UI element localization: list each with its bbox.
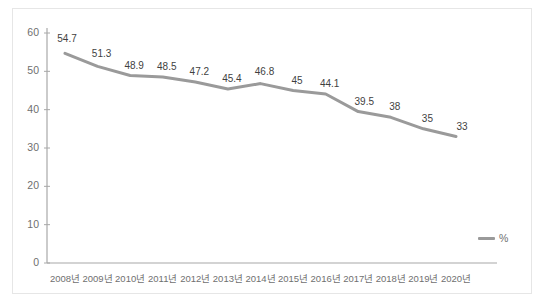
y-axis-tick-0: 0 — [5, 256, 39, 268]
y-axis-tick-50: 50 — [5, 64, 39, 76]
legend-label-percent: % — [499, 232, 508, 244]
data-label-2012년: 47.2 — [185, 66, 213, 77]
data-label-2015년: 45 — [283, 75, 311, 86]
data-label-2014년: 46.8 — [251, 66, 279, 77]
x-axis-tick-2020년: 2020년 — [432, 271, 480, 285]
y-axis-tick-20: 20 — [5, 179, 39, 191]
data-label-2020년: 33 — [448, 121, 476, 132]
data-label-2008년: 54.7 — [53, 33, 81, 44]
y-axis-tick-40: 40 — [5, 103, 39, 115]
chart-figure: 0102030405060 2008년2009년2010년2011년2012년2… — [0, 0, 544, 308]
legend-line-swatch-icon — [478, 237, 495, 240]
data-label-2017년: 39.5 — [350, 96, 378, 107]
y-axis-tick-10: 10 — [5, 218, 39, 230]
y-axis-tick-60: 60 — [5, 26, 39, 38]
data-label-2010년: 48.9 — [120, 60, 148, 71]
data-label-2016년: 44.1 — [316, 78, 344, 89]
data-label-2019년: 35 — [413, 113, 441, 124]
data-label-2009년: 51.3 — [88, 48, 116, 59]
data-label-2013년: 45.4 — [218, 73, 246, 84]
chart-legend: % — [478, 232, 508, 244]
y-axis-tick-30: 30 — [5, 141, 39, 153]
data-label-2011년: 48.5 — [153, 61, 181, 72]
data-label-2018년: 38 — [381, 101, 409, 112]
